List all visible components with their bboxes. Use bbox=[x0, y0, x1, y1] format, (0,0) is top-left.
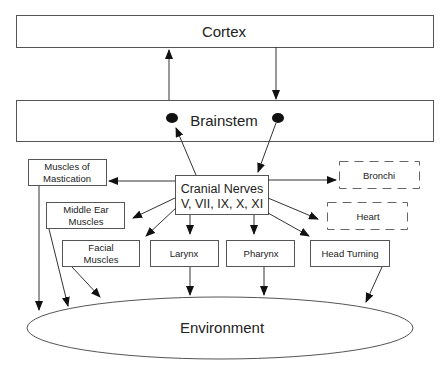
larynx-node: Larynx bbox=[151, 241, 219, 267]
pharynx-node: Pharynx bbox=[227, 241, 295, 267]
middle-ear-label-line2: Muscles bbox=[69, 216, 104, 227]
environment-node: Environment bbox=[27, 297, 413, 359]
heart-label: Heart bbox=[356, 211, 380, 222]
middle-ear-label-line1: Middle Ear bbox=[63, 204, 108, 215]
facial-label-line1: Facial bbox=[88, 242, 113, 253]
bronchi-node: Bronchi bbox=[340, 162, 420, 189]
brainstem-node: Brainstem bbox=[17, 101, 434, 142]
mastication-label-line1: Muscles of bbox=[44, 161, 90, 172]
head-turning-node: Head Turning bbox=[311, 241, 390, 267]
larynx-label: Larynx bbox=[170, 248, 199, 259]
pharynx-label: Pharynx bbox=[244, 248, 279, 259]
cranial-nerves-label-line1: Cranial Nerves bbox=[181, 182, 264, 196]
arrow-to-facial bbox=[146, 208, 176, 236]
cranial-nerves-node: Cranial Nerves V, VII, IX, X, XI bbox=[176, 176, 269, 215]
cortex-label: Cortex bbox=[202, 23, 247, 40]
middle-ear-muscles-node: Middle Ear Muscles bbox=[47, 203, 125, 229]
arrow-head-turning-to-environment bbox=[366, 267, 382, 302]
right-nucleus-dot bbox=[272, 113, 284, 123]
left-nucleus-dot bbox=[166, 113, 178, 123]
mastication-label-line2: Mastication bbox=[43, 173, 91, 184]
bronchi-label: Bronchi bbox=[363, 170, 395, 181]
facial-muscles-node: Facial Muscles bbox=[63, 241, 140, 267]
cranial-nerves-label-line2: V, VII, IX, X, XI bbox=[181, 197, 263, 211]
muscles-of-mastication-node: Muscles of Mastication bbox=[29, 160, 107, 186]
arrow-to-heart bbox=[268, 198, 318, 219]
environment-label: Environment bbox=[180, 319, 265, 336]
facial-label-line2: Muscles bbox=[84, 254, 119, 265]
cortex-node: Cortex bbox=[17, 16, 434, 48]
arrow-facial-to-environment bbox=[72, 267, 100, 297]
head-turning-label: Head Turning bbox=[321, 248, 378, 259]
heart-node: Heart bbox=[328, 203, 408, 230]
brainstem-label: Brainstem bbox=[190, 112, 258, 129]
diagram-canvas: Cortex Brainstem Cranial Nerves V, VII, … bbox=[0, 0, 444, 370]
arrow-to-head-turning bbox=[268, 213, 309, 236]
